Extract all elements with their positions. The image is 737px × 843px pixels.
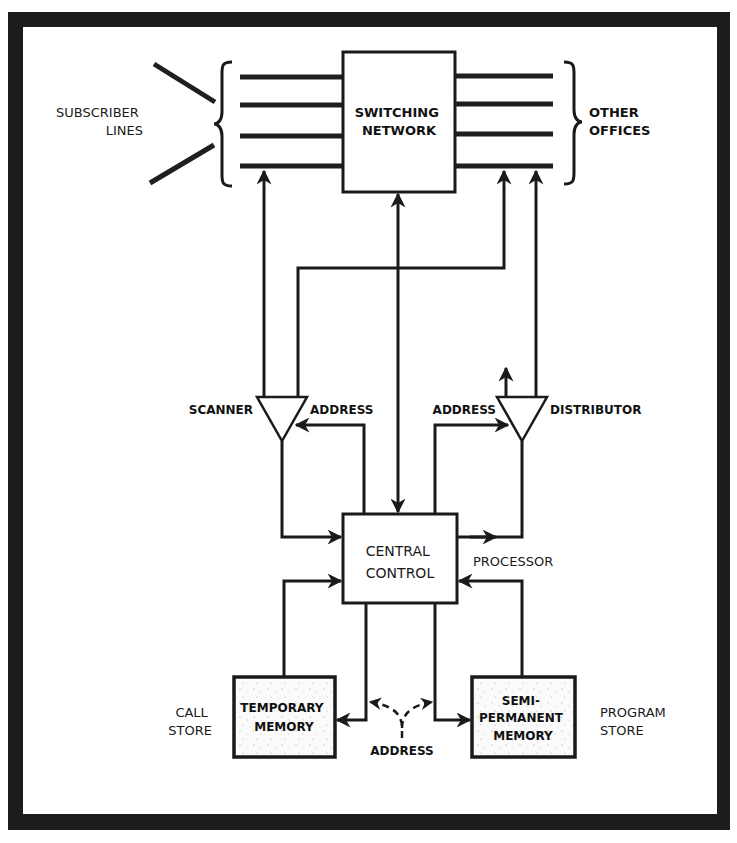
semi-permanent-memory-block: SEMI- PERMANENT MEMORY: [472, 677, 575, 757]
scanner-address-label: ADDRESS: [310, 403, 373, 417]
memory-address-label: ADDRESS: [370, 744, 433, 758]
switching-system-diagram: SUBSCRIBER LINES SWITCHING NETWORK OTHER…: [0, 0, 737, 843]
distributor-label: DISTRIBUTOR: [550, 403, 641, 417]
temporary-memory-block: TEMPORARY MEMORY: [234, 677, 335, 757]
switching-network-block: SWITCHING NETWORK: [343, 52, 455, 192]
scanner-label: SCANNER: [189, 403, 253, 417]
central-control-block: CENTRAL CONTROL: [343, 514, 457, 603]
distributor-address-label: ADDRESS: [433, 403, 496, 417]
processor-label: PROCESSOR: [473, 554, 553, 569]
